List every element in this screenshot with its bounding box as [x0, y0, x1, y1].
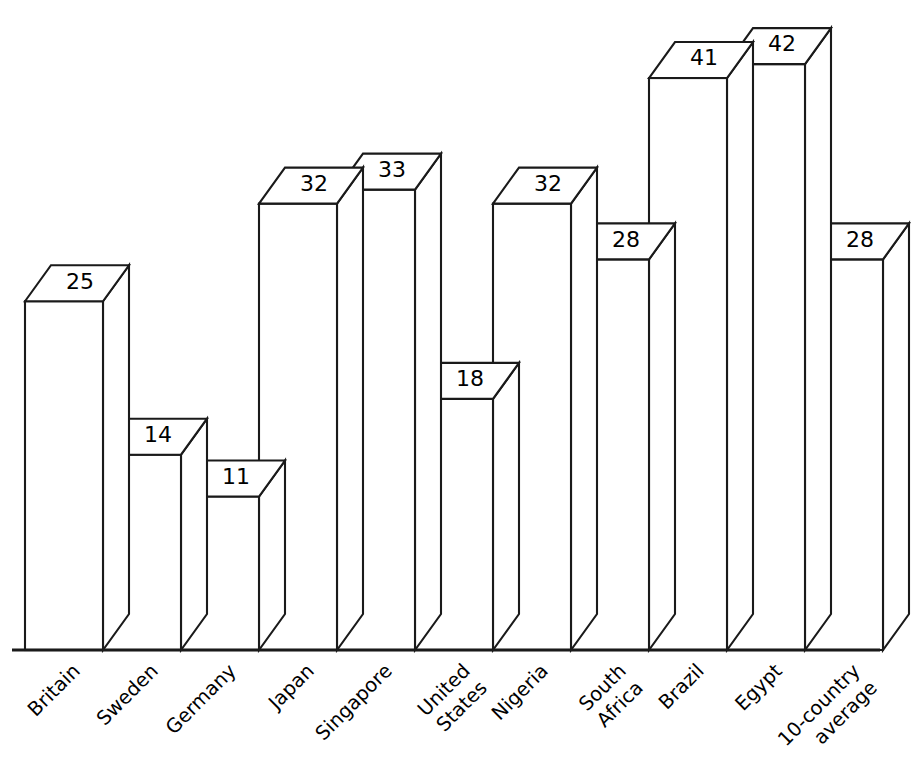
category-label-group: Brazil [654, 659, 709, 714]
category-label-group: Nigeria [487, 659, 553, 725]
category-label-group: Singapore [311, 659, 397, 745]
category-label-group: Britain [23, 659, 85, 721]
category-label: Japan [263, 659, 319, 715]
bar-group [25, 265, 129, 650]
category-label: Nigeria [487, 659, 553, 725]
bar-side-face [727, 42, 753, 650]
bar-side-face [805, 28, 831, 650]
bar-value-label: 18 [456, 366, 484, 391]
bar-value-label: 28 [612, 227, 640, 252]
category-label-group: Japan [263, 659, 319, 715]
category-label: Britain [23, 659, 85, 721]
bar-value-label: 32 [534, 171, 562, 196]
category-label: Sweden [92, 659, 163, 730]
category-label: Germany [161, 659, 241, 739]
chart-container: 2514113233183228414228 BritainSwedenGerm… [0, 0, 922, 777]
bar-value-label: 32 [300, 171, 328, 196]
category-label: Brazil [654, 659, 709, 714]
category-labels-layer: BritainSwedenGermanyJapanSingaporeUnited… [23, 659, 882, 768]
bar-value-label: 41 [690, 45, 718, 70]
bar-side-face [103, 265, 129, 650]
bar-side-face [649, 223, 675, 650]
category-label-group: Sweden [92, 659, 163, 730]
bar-side-face [181, 419, 207, 650]
category-label-group: Germany [161, 659, 241, 739]
bar-front-face [25, 301, 103, 650]
bars-layer [25, 28, 909, 650]
category-label-group: Egypt [731, 659, 787, 715]
bar-value-label: 33 [378, 157, 406, 182]
bar-side-face [337, 168, 363, 650]
bar-value-label: 14 [144, 422, 172, 447]
isometric-bar-chart: 2514113233183228414228 BritainSwedenGerm… [0, 0, 922, 777]
bar-side-face [493, 363, 519, 650]
bar-side-face [415, 154, 441, 650]
category-label: Singapore [311, 659, 397, 745]
category-label-group: UnitedStates [413, 659, 492, 738]
bar-value-label: 25 [66, 269, 94, 294]
category-label: Egypt [731, 659, 787, 715]
bar-value-label: 42 [768, 31, 796, 56]
bar-value-label: 28 [846, 227, 874, 252]
bar-value-label: 11 [222, 464, 250, 489]
category-label-group: SouthAfrica [574, 659, 647, 732]
bar-side-face [571, 168, 597, 650]
category-label-group: 10-countryaverage [773, 659, 881, 767]
bar-side-face [883, 223, 909, 650]
